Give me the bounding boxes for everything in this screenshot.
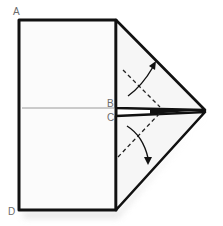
lower-triangle-flap [116, 112, 205, 210]
upper-triangle-flap [116, 20, 205, 110]
point-label-d: D [8, 206, 15, 217]
folded-paper-body [19, 20, 116, 210]
folding-diagram: A B C D [0, 0, 223, 226]
point-label-b: B [107, 98, 114, 109]
point-label-c: C [107, 112, 114, 123]
point-label-a: A [13, 6, 20, 17]
